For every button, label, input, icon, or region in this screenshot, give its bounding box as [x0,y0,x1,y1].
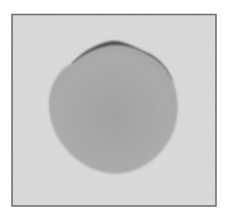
blob-photo [0,0,228,221]
photo-figure [0,0,228,221]
